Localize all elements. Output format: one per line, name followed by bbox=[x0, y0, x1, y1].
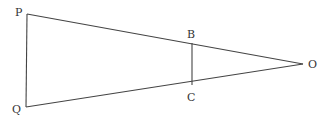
label-b: B bbox=[187, 28, 195, 41]
segment-qo bbox=[26, 64, 303, 107]
segment-pq bbox=[26, 14, 27, 107]
label-c: C bbox=[187, 91, 195, 104]
label-p: P bbox=[15, 6, 23, 19]
label-o: O bbox=[308, 58, 317, 71]
label-q: Q bbox=[12, 103, 21, 116]
triangle-diagram: P Q O B C bbox=[0, 0, 330, 118]
segment-po bbox=[27, 14, 303, 64]
